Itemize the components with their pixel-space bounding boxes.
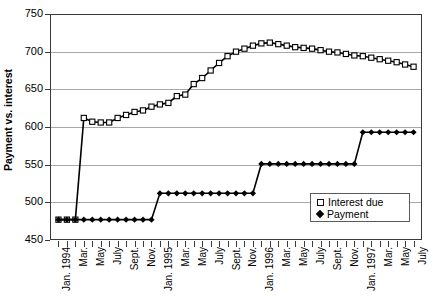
data-point-solid-diamond: [165, 190, 171, 196]
data-point-open-square: [225, 54, 230, 59]
data-point-solid-diamond: [343, 161, 349, 167]
data-point-solid-diamond: [148, 217, 154, 223]
data-point-open-square: [343, 51, 348, 56]
data-point-solid-diamond: [241, 190, 247, 196]
data-point-open-square: [284, 43, 289, 48]
data-point-open-square: [377, 57, 382, 62]
data-point-open-square: [200, 75, 205, 80]
data-point-solid-diamond: [182, 190, 188, 196]
data-point-solid-diamond: [106, 217, 112, 223]
data-point-open-square: [326, 49, 331, 54]
data-point-open-square: [140, 108, 145, 113]
data-point-open-square: [293, 45, 298, 50]
data-point-solid-diamond: [292, 161, 298, 167]
data-point-open-square: [98, 120, 103, 125]
data-point-solid-diamond: [326, 161, 332, 167]
data-point-open-square: [132, 109, 137, 114]
data-point-solid-diamond: [98, 217, 104, 223]
data-point-open-square: [166, 100, 171, 105]
data-point-open-square: [149, 104, 154, 109]
data-point-solid-diamond: [174, 190, 180, 196]
data-point-open-square: [267, 40, 272, 45]
legend: Interest due Payment: [310, 193, 410, 222]
data-point-solid-diamond: [309, 161, 315, 167]
data-point-solid-diamond: [301, 161, 307, 167]
series-lines: [0, 0, 433, 306]
legend-label-payment: Payment: [327, 208, 368, 220]
data-point-solid-diamond: [123, 217, 129, 223]
data-point-solid-diamond: [157, 190, 163, 196]
data-point-open-square: [242, 46, 247, 51]
data-point-solid-diamond: [216, 190, 222, 196]
data-point-open-square: [183, 92, 188, 97]
data-point-solid-diamond: [284, 161, 290, 167]
legend-item-interest-due: Interest due: [315, 196, 409, 208]
data-point-open-square: [115, 115, 120, 120]
data-point-open-square: [352, 53, 357, 58]
data-point-open-square: [369, 55, 374, 60]
data-point-solid-diamond: [81, 217, 87, 223]
data-point-solid-diamond: [410, 129, 416, 135]
data-point-open-square: [81, 115, 86, 120]
data-point-open-square: [191, 81, 196, 86]
data-point-solid-diamond: [402, 129, 408, 135]
chart-container: Payment vs. interest 4505005506006507007…: [0, 0, 433, 306]
data-point-solid-diamond: [317, 161, 323, 167]
data-point-open-square: [402, 62, 407, 67]
data-point-solid-diamond: [394, 129, 400, 135]
data-point-solid-diamond: [131, 217, 137, 223]
data-point-solid-diamond: [377, 129, 383, 135]
solid-diamond-icon: [316, 210, 324, 218]
data-point-open-square: [411, 64, 416, 69]
data-point-solid-diamond: [360, 129, 366, 135]
data-point-open-square: [259, 41, 264, 46]
data-point-solid-diamond: [224, 190, 230, 196]
data-point-solid-diamond: [258, 161, 264, 167]
data-point-open-square: [216, 60, 221, 65]
legend-item-payment: Payment: [315, 208, 409, 220]
data-point-open-square: [107, 120, 112, 125]
data-point-open-square: [309, 46, 314, 51]
data-point-open-square: [250, 43, 255, 48]
data-point-solid-diamond: [275, 161, 281, 167]
data-point-solid-diamond: [115, 217, 121, 223]
data-point-solid-diamond: [191, 190, 197, 196]
data-point-solid-diamond: [140, 217, 146, 223]
data-point-solid-diamond: [233, 190, 239, 196]
data-point-open-square: [276, 42, 281, 47]
data-point-open-square: [360, 54, 365, 59]
data-point-open-square: [386, 58, 391, 63]
data-point-open-square: [335, 50, 340, 55]
data-point-open-square: [318, 48, 323, 53]
data-point-open-square: [123, 112, 128, 117]
data-point-open-square: [90, 119, 95, 124]
data-point-solid-diamond: [351, 161, 357, 167]
data-point-solid-diamond: [199, 190, 205, 196]
data-point-solid-diamond: [385, 129, 391, 135]
data-point-open-square: [174, 94, 179, 99]
data-point-solid-diamond: [89, 217, 95, 223]
data-point-open-square: [301, 45, 306, 50]
data-point-open-square: [233, 49, 238, 54]
data-point-solid-diamond: [208, 190, 214, 196]
data-point-solid-diamond: [368, 129, 374, 135]
open-square-icon: [317, 199, 324, 206]
data-point-solid-diamond: [250, 190, 256, 196]
data-point-open-square: [157, 102, 162, 107]
data-point-solid-diamond: [267, 161, 273, 167]
data-point-open-square: [208, 68, 213, 73]
legend-label-interest-due: Interest due: [328, 196, 383, 208]
data-point-solid-diamond: [334, 161, 340, 167]
data-point-open-square: [394, 60, 399, 65]
